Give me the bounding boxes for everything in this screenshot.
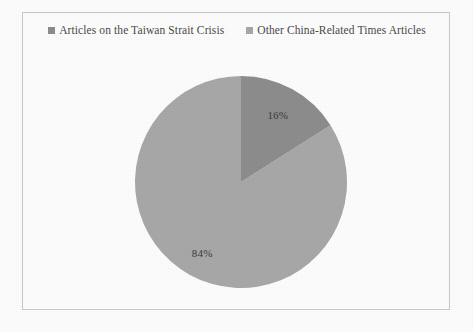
pie-chart: 16% 84% — [23, 13, 451, 311]
pie-data-label-16: 16% — [267, 109, 288, 121]
pie-chart-svg: 16% 84% — [23, 13, 451, 311]
pie-data-label-84: 84% — [192, 247, 213, 259]
chart-frame: Articles on the Taiwan Strait Crisis Oth… — [22, 12, 450, 310]
pie-slices — [135, 76, 347, 288]
